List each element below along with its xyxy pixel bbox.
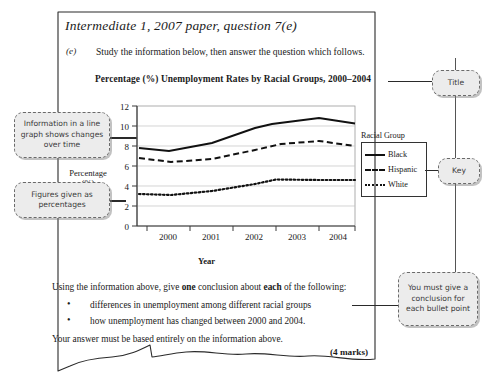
- lead-in-bold-one: one: [182, 282, 196, 292]
- page-title: Intermediate 1, 2007 paper, question 7(e…: [65, 18, 297, 34]
- svg-text:2000: 2000: [159, 232, 178, 242]
- svg-text:12: 12: [120, 102, 129, 112]
- worksheet-page: Intermediate 1, 2007 paper, question 7(e…: [0, 0, 490, 381]
- legend-label-white: White: [388, 180, 408, 189]
- title-callout: Title: [432, 70, 480, 96]
- connector-title: [388, 81, 432, 82]
- x-axis-label: Year: [198, 256, 215, 266]
- svg-text:2: 2: [125, 202, 130, 212]
- information-callout: Information in a line graph shows change…: [14, 112, 110, 158]
- unemployment-line-chart: 12 10 8 6 4 2 0 2000 2001 2002: [112, 100, 362, 252]
- key-callout: Key: [438, 158, 480, 184]
- legend-box: Black Hispanic White: [361, 142, 427, 197]
- line-solid-icon: [365, 150, 385, 159]
- lead-in-bold-each: each: [264, 282, 282, 292]
- question-bullet-list: differences in unemployment among differ…: [52, 297, 382, 329]
- chart-title: Percentage (%) Unemployment Rates by Rac…: [95, 74, 371, 84]
- svg-text:8: 8: [125, 142, 130, 152]
- part-label: (e): [66, 46, 76, 56]
- list-item: differences in unemployment among differ…: [52, 297, 382, 313]
- svg-text:2001: 2001: [202, 232, 220, 242]
- lead-in-part1: Using the information above, give: [52, 282, 182, 292]
- x-tick-labels: 2000 2001 2002 2003 2004: [159, 232, 348, 242]
- legend-label-black: Black: [388, 150, 407, 159]
- svg-text:2004: 2004: [329, 232, 348, 242]
- bullet-callout: You must give a conclusion for each bull…: [398, 272, 478, 326]
- line-dotted-icon: [365, 180, 385, 189]
- svg-text:10: 10: [120, 122, 130, 132]
- connector-key: [425, 170, 439, 171]
- svg-text:6: 6: [125, 162, 130, 172]
- svg-text:2002: 2002: [245, 232, 263, 242]
- svg-text:4: 4: [125, 182, 130, 192]
- question-lead-in: Using the information above, give one co…: [52, 280, 382, 295]
- legend-item-hispanic: Hispanic: [365, 162, 422, 177]
- lead-in-part2: conclusion about: [196, 282, 264, 292]
- legend-item-white: White: [365, 177, 422, 192]
- instruction-text: Study the information below, then answer…: [96, 46, 365, 57]
- svg-text:2003: 2003: [288, 232, 307, 242]
- chart-legend: Racial Group Black Hispanic White: [361, 131, 427, 197]
- question-closing: Your answer must be based entirely on th…: [52, 332, 382, 347]
- legend-label-hispanic: Hispanic: [388, 165, 417, 174]
- margin-rule-mid: [455, 96, 456, 158]
- figures-callout: Figures given as percentages: [14, 182, 110, 218]
- marks-label: (4 marks): [330, 347, 368, 357]
- legend-item-black: Black: [365, 147, 422, 162]
- chart-svg: 12 10 8 6 4 2 0 2000 2001 2002: [112, 100, 362, 252]
- lead-in-part3: of the following:: [282, 282, 347, 292]
- line-dashed-icon: [365, 165, 385, 174]
- svg-text:0: 0: [125, 222, 130, 232]
- question-block: Using the information above, give one co…: [52, 280, 382, 347]
- y-tick-labels: 12 10 8 6 4 2 0: [120, 102, 130, 232]
- list-item: how unemployment has changed between 200…: [52, 313, 382, 329]
- legend-title: Racial Group: [361, 131, 427, 140]
- margin-rule-low: [455, 184, 456, 272]
